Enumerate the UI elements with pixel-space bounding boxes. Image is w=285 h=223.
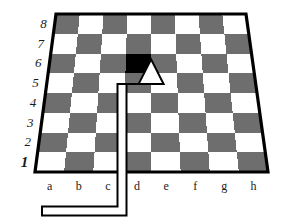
board-square-e1 [151,152,180,172]
board-square-c8 [102,14,127,34]
board-square-d8 [127,14,151,34]
board-square-b1 [64,152,94,172]
board-square-a1 [35,152,66,172]
board-square-h7 [224,34,251,54]
board-square-g7 [200,34,227,54]
board-square-b3 [68,113,97,133]
board-square-e4 [151,93,178,113]
board-square-d7 [126,34,151,54]
board-square-g2 [207,133,237,153]
file-label-g: g [216,180,232,192]
board-square-f6 [176,54,203,74]
board-squares [35,14,268,172]
board-square-e7 [151,34,176,54]
board-square-h1 [237,152,268,172]
board-square-f5 [177,73,204,93]
file-label-b: b [71,180,87,192]
board-square-e3 [151,113,179,133]
board-square-d4 [124,93,151,113]
rank-label-4: 4 [20,96,36,109]
board-square-f7 [175,34,201,54]
board-square-e2 [151,133,180,153]
rank-label-5: 5 [23,76,39,89]
board-square-h8 [222,14,249,34]
file-label-d: d [129,180,145,192]
board-square-a2 [38,133,68,153]
board-square-h5 [228,73,257,93]
board-square-c7 [101,34,127,54]
file-label-e: e [158,180,174,192]
board-square-a3 [40,113,70,133]
rank-label-3: 3 [18,116,34,129]
board-square-b5 [72,73,100,93]
board-square-b8 [78,14,104,34]
board-square-g1 [208,152,239,172]
board-square-h4 [231,93,260,113]
chessboard-diagram: 87654321 abcdefgh [0,0,285,223]
board-square-b4 [70,93,98,113]
file-label-f: f [187,180,203,192]
board-square-a5 [46,73,74,93]
board-square-f3 [178,113,207,133]
board-square-g3 [206,113,235,133]
file-label-h: h [245,180,261,192]
rank-label-6: 6 [25,56,41,69]
rank-label-8: 8 [31,17,47,30]
board-square-b7 [76,34,102,54]
board-square-d3 [124,113,152,133]
board-square-h6 [226,54,254,74]
board-square-g6 [201,54,228,74]
board-square-f2 [179,133,208,153]
board-square-g4 [204,93,233,113]
board-square-f4 [178,93,206,113]
board-square-h3 [233,113,263,133]
board-square-a7 [51,34,78,54]
rank-label-2: 2 [15,135,31,148]
board-square-f8 [175,14,200,34]
rank-label-7: 7 [28,37,44,50]
rank-label-1: 1 [12,155,28,170]
board-square-b2 [66,133,96,153]
board-square-e8 [151,14,175,34]
file-label-a: a [42,180,58,192]
board-square-f1 [180,152,210,172]
board-square-h2 [235,133,266,153]
board-square-g8 [199,14,225,34]
board-square-a4 [43,93,72,113]
board-square-b6 [74,54,101,74]
board-square-g5 [203,73,231,93]
board-square-a6 [48,54,76,74]
file-label-c: c [100,180,116,192]
board-square-a8 [53,14,79,34]
board-square-c6 [100,54,126,74]
